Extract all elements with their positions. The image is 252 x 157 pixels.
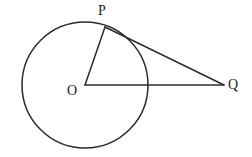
point-label-p: P: [98, 4, 106, 18]
geometry-canvas: [0, 0, 252, 157]
radius-segment-op: [85, 27, 105, 85]
tangent-segment-pq: [105, 27, 224, 85]
geometry-figure: P O Q: [0, 0, 252, 157]
point-label-q: Q: [228, 78, 238, 92]
point-label-o: O: [67, 84, 77, 98]
